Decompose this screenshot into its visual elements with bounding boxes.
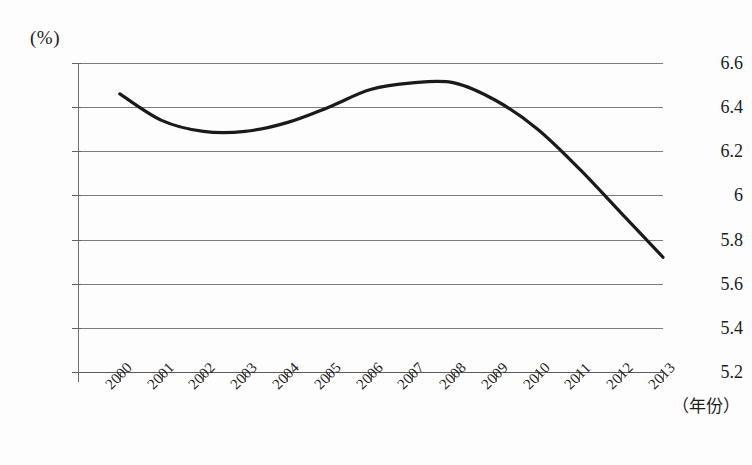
x-tick-label: 2003 xyxy=(227,359,261,393)
x-tick-label: 2005 xyxy=(311,359,345,393)
y-tick-label: 6.6 xyxy=(684,53,752,74)
y-tick-label: 6.2 xyxy=(684,141,752,162)
x-tick-label: 2012 xyxy=(603,359,637,393)
y-tick-mark xyxy=(72,195,81,196)
gridline xyxy=(78,63,663,64)
x-tick-label: 2013 xyxy=(645,359,679,393)
y-tick-label: 5.6 xyxy=(684,273,752,294)
series-layer xyxy=(0,0,752,465)
x-tick-label: 2010 xyxy=(520,359,554,393)
y-tick-label: 5.4 xyxy=(684,317,752,338)
y-tick-label: 5.8 xyxy=(684,229,752,250)
chart-screenshot: (%) 6.66.46.265.85.65.45.2 2000200120022… xyxy=(0,0,752,465)
x-tick-label: 2002 xyxy=(185,359,219,393)
y-tick-label: 6.4 xyxy=(684,97,752,118)
gridline xyxy=(78,240,663,241)
gridline xyxy=(78,195,663,196)
y-tick-label: 6 xyxy=(684,185,752,206)
y-tick-mark xyxy=(72,107,81,108)
y-tick-label: 5.2 xyxy=(684,362,752,383)
y-tick-mark xyxy=(72,151,81,152)
x-tick-label: 2001 xyxy=(144,359,178,393)
x-tick-label: 2011 xyxy=(561,360,594,393)
y-axis-unit-label: (%) xyxy=(30,27,60,49)
x-tick-label: 2006 xyxy=(353,359,387,393)
y-tick-mark xyxy=(72,284,81,285)
x-tick-label: 2007 xyxy=(394,359,428,393)
gridline xyxy=(78,151,663,152)
x-tick-label: 2000 xyxy=(102,359,136,393)
y-tick-mark xyxy=(72,240,81,241)
y-axis-line xyxy=(78,63,79,373)
gridline xyxy=(78,328,663,329)
gridline xyxy=(78,284,663,285)
x-tick-label: 2008 xyxy=(436,359,470,393)
x-tick-mark xyxy=(78,373,79,382)
y-tick-mark xyxy=(72,372,81,373)
y-tick-mark xyxy=(72,63,81,64)
x-tick-label: 2004 xyxy=(269,359,303,393)
y-tick-mark xyxy=(72,328,81,329)
gridline xyxy=(78,107,663,108)
x-axis-title: （年份） xyxy=(672,392,740,417)
x-tick-label: 2009 xyxy=(478,359,512,393)
